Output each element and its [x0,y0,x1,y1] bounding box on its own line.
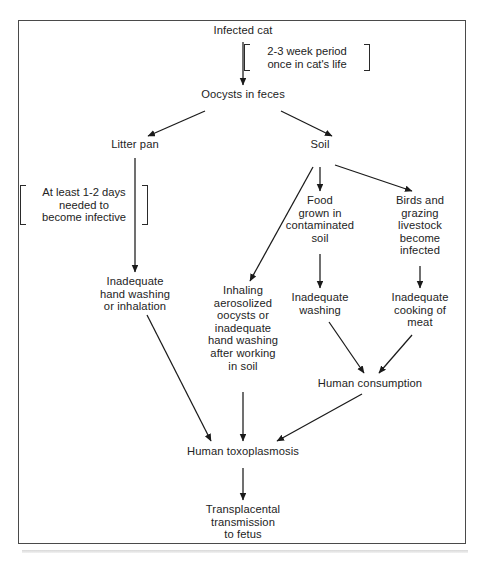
node-human-consumption: Human consumption [318,377,422,390]
node-inadequate-hand-washing-or-inhalation: Inadequate hand washing or inhalation [100,275,170,313]
edge-oocysts-to-litter-pan [148,111,205,136]
edge-hand-washing-to-toxoplasmosis [147,315,211,441]
note-infective-delay: At least 1-2 days needed to become infec… [20,185,148,225]
node-food-grown-in-contaminated-soil: Food grown in contaminated soil [286,194,354,244]
edge-soil-to-birds-livestock [335,165,412,191]
node-soil: Soil [310,138,329,151]
note-cat-shedding-period: 2-3 week period once in cat's life [244,44,370,71]
figure-page: Infected cat 2-3 week period once in cat… [0,0,486,578]
edge-oocysts-to-soil [281,111,332,136]
node-birds-and-grazing-livestock: Birds and grazing livestock become infec… [396,194,444,257]
page-edge-shadow [22,550,468,553]
node-human-toxoplasmosis: Human toxoplasmosis [187,445,299,458]
edge-consumption-to-toxoplasmosis [277,394,362,441]
node-inadequate-washing: Inadequate washing [292,291,349,316]
edge-inadequate-washing-to-consumption [329,322,364,373]
node-oocysts-in-feces: Oocysts in feces [201,88,285,101]
node-infected-cat: Infected cat [213,24,272,37]
edge-inadequate-cooking-to-consumption [379,335,412,373]
node-litter-pan: Litter pan [111,138,159,151]
node-inadequate-cooking-of-meat: Inadequate cooking of meat [392,291,449,329]
node-transplacental-transmission: Transplacental transmission to fetus [206,503,280,541]
node-inhaling-aerosolized-oocysts: Inhaling aerosolized oocysts or inadequa… [208,284,278,372]
